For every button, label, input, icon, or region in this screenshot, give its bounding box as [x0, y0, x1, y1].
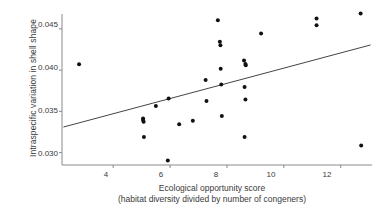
data-point — [142, 120, 146, 124]
data-point — [204, 78, 208, 82]
data-point — [191, 119, 195, 123]
data-point — [77, 62, 81, 66]
data-point — [177, 122, 181, 126]
data-point — [359, 12, 363, 16]
data-point — [259, 31, 263, 35]
data-points — [77, 12, 363, 163]
data-point — [154, 104, 158, 108]
data-point — [220, 114, 224, 118]
data-point — [219, 67, 223, 71]
data-point — [244, 63, 248, 67]
axes-group — [62, 14, 372, 165]
data-point — [218, 43, 222, 47]
data-point — [142, 135, 146, 139]
data-point — [315, 17, 319, 21]
data-point — [219, 83, 223, 87]
data-point — [243, 97, 247, 101]
trendline-path — [63, 45, 370, 127]
data-point — [204, 99, 208, 103]
data-point — [167, 97, 171, 101]
scatter-plot-figure: Intraspecific variation in shell shape E… — [0, 0, 381, 214]
data-point — [243, 135, 247, 139]
trendline — [63, 45, 370, 127]
data-point — [243, 85, 247, 89]
data-point — [216, 18, 220, 22]
plot-canvas — [0, 0, 381, 214]
data-point — [166, 158, 170, 162]
data-point — [359, 144, 363, 148]
data-point — [218, 40, 222, 44]
data-point — [315, 23, 319, 27]
